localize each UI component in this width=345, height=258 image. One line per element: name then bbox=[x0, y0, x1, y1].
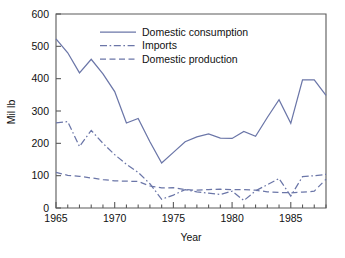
chart-figure: 010020030040050060019651970197519801985 … bbox=[0, 0, 345, 258]
line-chart: 010020030040050060019651970197519801985 … bbox=[0, 0, 345, 258]
x-axis-title: Year bbox=[180, 231, 202, 243]
y-axis-title: Mil lb bbox=[5, 100, 17, 125]
x-tick-label: 1980 bbox=[220, 212, 244, 224]
y-tick-label: 600 bbox=[31, 8, 49, 20]
y-tick-label: 200 bbox=[31, 137, 49, 149]
legend-label-1: Imports bbox=[142, 39, 177, 51]
y-tick-label: 300 bbox=[31, 105, 49, 117]
legend-label-0: Domestic consumption bbox=[142, 26, 248, 38]
y-tick-label: 500 bbox=[31, 40, 49, 52]
y-tick-label: 400 bbox=[31, 72, 49, 84]
series-line-2 bbox=[56, 172, 326, 192]
x-tick-label: 1970 bbox=[103, 212, 127, 224]
x-tick-label: 1975 bbox=[162, 212, 186, 224]
x-tick-label: 1965 bbox=[44, 212, 68, 224]
x-tick-label: 1985 bbox=[279, 212, 303, 224]
y-tick-label: 100 bbox=[31, 169, 49, 181]
series-line-1 bbox=[56, 122, 326, 201]
chart-legend: Domestic consumptionImportsDomestic prod… bbox=[100, 26, 248, 65]
legend-label-2: Domestic production bbox=[142, 53, 238, 65]
